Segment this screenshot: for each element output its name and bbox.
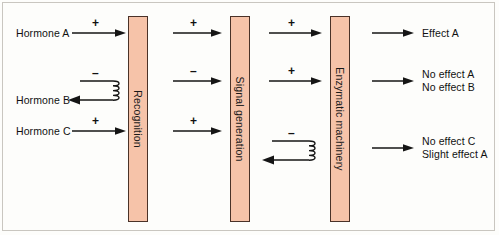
stage-box-recognition[interactable]: Recognition bbox=[128, 16, 148, 222]
input-label-hormone-c: Hormone C bbox=[16, 125, 71, 138]
sign-row-b-stage2: + bbox=[288, 66, 295, 76]
stage-box-enzymatic-machinery[interactable]: Enzymatic machinery bbox=[330, 16, 350, 222]
sign-row-b-stage1: – bbox=[190, 66, 197, 76]
stage-label-enzymatic-machinery: Enzymatic machinery bbox=[334, 67, 346, 171]
output-label-no-effect-b: No effect B bbox=[422, 81, 475, 94]
sign-row-a-stage2: + bbox=[288, 18, 295, 28]
input-label-hormone-b: Hormone B bbox=[16, 94, 70, 107]
stage-box-signal-generation[interactable]: Signal generation bbox=[230, 16, 250, 222]
sign-row-b-input: – bbox=[92, 68, 99, 78]
output-label-no-effect-c: No effect C bbox=[422, 135, 475, 148]
stage-label-signal-generation: Signal generation bbox=[234, 76, 246, 161]
output-label-effect-a: Effect A bbox=[422, 27, 459, 40]
output-label-no-effect-a: No effect A bbox=[422, 68, 474, 81]
output-label-slight-effect-a: Slight effect A bbox=[422, 148, 488, 161]
diagram-canvas: Recognition Signal generation Enzymatic … bbox=[0, 0, 499, 235]
sign-row-c-stage2: – bbox=[288, 128, 295, 138]
stage-label-recognition: Recognition bbox=[132, 90, 144, 148]
sign-row-a-input: + bbox=[92, 18, 99, 28]
sign-row-c-stage1: + bbox=[190, 116, 197, 126]
sign-row-a-stage1: + bbox=[190, 18, 197, 28]
input-label-hormone-a: Hormone A bbox=[16, 27, 69, 40]
sign-row-c-input: + bbox=[92, 116, 99, 126]
